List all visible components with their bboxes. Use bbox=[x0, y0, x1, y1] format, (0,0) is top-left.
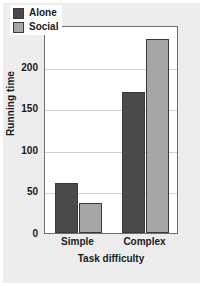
x-tick-label: Complex bbox=[123, 237, 165, 247]
legend-swatch-icon bbox=[13, 8, 24, 19]
chart-figure: 050100150200250 Running time SimpleCompl… bbox=[0, 0, 203, 286]
bar-simple-social bbox=[79, 203, 102, 233]
legend-label: Alone bbox=[29, 8, 57, 18]
bar-complex-social bbox=[146, 39, 169, 233]
y-tick-label: 0 bbox=[32, 229, 38, 239]
x-axis-ticks: SimpleComplex bbox=[44, 237, 178, 251]
y-tick-label: 200 bbox=[21, 63, 38, 73]
legend-label: Social bbox=[29, 22, 58, 32]
legend-item-social: Social bbox=[13, 21, 58, 33]
y-tick-label: 50 bbox=[27, 187, 38, 197]
legend-swatch-icon bbox=[13, 22, 24, 33]
y-tick-label: 100 bbox=[21, 146, 38, 156]
y-tick-label: 150 bbox=[21, 104, 38, 114]
y-axis-title: Running time bbox=[5, 56, 16, 152]
chart-legend: AloneSocial bbox=[10, 5, 62, 35]
plot-area bbox=[44, 26, 178, 234]
x-axis-title: Task difficulty bbox=[44, 253, 178, 264]
bar-simple-alone bbox=[55, 183, 78, 233]
bar-complex-alone bbox=[122, 92, 145, 233]
legend-item-alone: Alone bbox=[13, 7, 58, 19]
x-tick-label: Simple bbox=[61, 237, 94, 247]
